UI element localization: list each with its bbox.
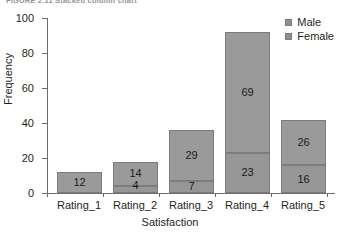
x-axis-label-rating-1: Rating_1: [57, 199, 101, 211]
legend-label-female: Female: [297, 31, 334, 42]
x-axis-line: [47, 193, 335, 194]
y-tick-label-80: 80: [22, 47, 34, 59]
bar-segment-rating-3-female[interactable]: 7: [169, 181, 214, 193]
bar-segment-rating-2-female[interactable]: 4: [113, 186, 158, 193]
y-tick-label-0: 0: [28, 187, 34, 199]
x-axis-label-rating-4: Rating_4: [225, 199, 269, 211]
x-axis-label-rating-3: Rating_3: [169, 199, 213, 211]
legend-item-male[interactable]: Male: [285, 17, 334, 28]
x-tick-start: [47, 193, 48, 197]
bar-label-rating-4-female: 23: [241, 167, 253, 178]
legend-item-female[interactable]: Female: [285, 31, 334, 42]
bar-group-rating-2[interactable]: 14 4: [113, 162, 158, 194]
bar-label-rating-5-female: 16: [297, 174, 309, 185]
bar-segment-rating-4-female[interactable]: 23: [225, 153, 270, 193]
bar-segment-rating-1-male[interactable]: 12: [57, 172, 102, 193]
figure-container: FIGURE 2.11 Stacked column chart Frequen…: [0, 0, 340, 234]
y-tick-label-40: 40: [22, 117, 34, 129]
legend-swatch-female-icon: [285, 33, 292, 40]
legend-label-male: Male: [297, 17, 321, 28]
x-tick-4: [271, 193, 272, 197]
bar-group-rating-4[interactable]: 69 23: [225, 32, 270, 193]
bar-segment-rating-5-male[interactable]: 26: [281, 120, 326, 166]
x-tick-end: [327, 193, 328, 197]
legend-swatch-male-icon: [285, 19, 292, 26]
figure-caption-strip: FIGURE 2.11 Stacked column chart: [6, 0, 196, 5]
x-axis-title: Satisfaction: [0, 216, 340, 228]
x-tick-3: [215, 193, 216, 197]
figure-caption: FIGURE 2.11 Stacked column chart: [6, 0, 196, 5]
bar-group-rating-3[interactable]: 29 7: [169, 130, 214, 193]
bar-group-rating-1[interactable]: 12: [57, 172, 102, 193]
bar-segment-rating-4-male[interactable]: 69: [225, 32, 270, 153]
bar-label-rating-3-female: 7: [188, 181, 194, 192]
y-tick-label-20: 20: [22, 152, 34, 164]
x-axis-label-rating-2: Rating_2: [113, 199, 157, 211]
y-tick-label-60: 60: [22, 82, 34, 94]
bar-label-rating-2-male: 14: [129, 168, 141, 179]
bar-label-rating-5-male: 26: [297, 137, 309, 148]
bar-group-rating-5[interactable]: 26 16: [281, 120, 326, 194]
x-tick-1: [103, 193, 104, 197]
bar-segment-rating-5-female[interactable]: 16: [281, 165, 326, 193]
bar-label-rating-4-male: 69: [241, 87, 253, 98]
bar-segment-rating-3-male[interactable]: 29: [169, 130, 214, 181]
bar-label-rating-1-male: 12: [73, 177, 85, 188]
bar-label-rating-3-male: 29: [185, 150, 197, 161]
x-axis-label-rating-5: Rating_5: [281, 199, 325, 211]
y-axis-title: Frequency: [2, 53, 14, 105]
bar-label-rating-2-female: 4: [132, 180, 138, 191]
legend: Male Female: [285, 17, 334, 45]
x-tick-2: [159, 193, 160, 197]
y-tick-label-100: 100: [16, 12, 34, 24]
